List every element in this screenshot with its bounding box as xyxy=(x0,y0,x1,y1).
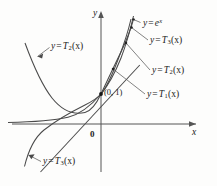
label-t2-right: y=T2(x) xyxy=(152,66,184,76)
label-t1-right-eq: = xyxy=(151,89,158,99)
label-exp: y=ex xyxy=(143,18,162,28)
taylor-polynomial-figure: y x 0 (0, 1) y=ex y=T3(x) y=T2(x) y=T1(x… xyxy=(0,0,217,186)
label-t3-right-eq: = xyxy=(154,35,161,45)
x-axis-label: x xyxy=(192,128,196,138)
label-t2-right-eq: = xyxy=(156,65,163,75)
label-t3-right-arg: (x) xyxy=(171,35,182,45)
label-t3-right: y=T3(x) xyxy=(150,36,182,46)
y-axis-label: y xyxy=(93,9,97,19)
point-0-1 xyxy=(99,92,103,96)
label-t2-left-arg: (x) xyxy=(72,41,83,51)
origin-label: 0 xyxy=(90,130,95,139)
label-t3-bottom-eq: = xyxy=(47,156,54,166)
label-exp-exponent: x xyxy=(159,17,162,24)
label-t1-right-arg: (x) xyxy=(168,89,179,99)
label-t3-bottom: y=T3(x) xyxy=(43,157,75,167)
label-t1-right: y=T1(x) xyxy=(147,90,179,100)
label-t3-bottom-arg: (x) xyxy=(64,156,75,166)
point-label-0-1: (0, 1) xyxy=(104,88,122,97)
label-t2-left-eq: = xyxy=(55,41,62,51)
label-exp-eq: = xyxy=(147,18,154,28)
label-t2-left: y=T2(x) xyxy=(51,42,83,52)
x-axis xyxy=(12,121,196,127)
label-t2-right-arg: (x) xyxy=(173,65,184,75)
